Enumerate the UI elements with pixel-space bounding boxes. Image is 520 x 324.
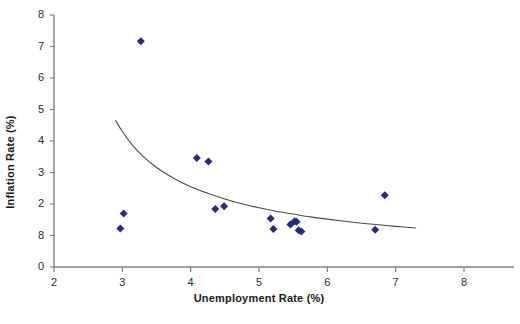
data-point-marker <box>116 225 124 233</box>
data-point-marker <box>137 37 145 45</box>
x-tick-label: 3 <box>114 277 130 288</box>
data-point-marker <box>211 205 219 213</box>
y-tick-label: 7 <box>28 41 44 52</box>
y-tick-label: 8 <box>28 9 44 20</box>
x-tick-label: 4 <box>183 277 199 288</box>
y-tick-label: 0 <box>28 261 44 272</box>
y-tick-label: 8 <box>28 230 44 241</box>
scatter-chart-figure: Inflation Rate (%) Unemployment Rate (%)… <box>0 0 520 324</box>
x-tick-label: 2 <box>46 277 62 288</box>
x-tick-label: 6 <box>319 277 335 288</box>
y-tick-label: 5 <box>28 104 44 115</box>
data-point-marker <box>269 225 277 233</box>
x-tick-label: 5 <box>251 277 267 288</box>
y-tick-label: 3 <box>28 167 44 178</box>
trendline-curve <box>116 120 417 228</box>
y-axis-title: Inflation Rate (%) <box>2 0 18 324</box>
x-tick-label: 7 <box>388 277 404 288</box>
data-point-marker <box>267 214 275 222</box>
y-tick-label: 4 <box>28 135 44 146</box>
trendline-path <box>116 120 417 228</box>
x-axis-title: Unemployment Rate (%) <box>54 292 464 304</box>
data-point-marker <box>193 154 201 162</box>
y-tick-label: 6 <box>28 72 44 83</box>
data-point-marker <box>220 202 228 210</box>
axis-tick-marks <box>50 15 464 272</box>
data-point-marker <box>120 209 128 217</box>
data-point-marker <box>381 191 389 199</box>
data-point-marker <box>204 157 212 165</box>
x-tick-label: 8 <box>456 277 472 288</box>
data-point-marker <box>371 226 379 234</box>
y-tick-label: 2 <box>28 198 44 209</box>
data-point-markers <box>116 37 388 235</box>
